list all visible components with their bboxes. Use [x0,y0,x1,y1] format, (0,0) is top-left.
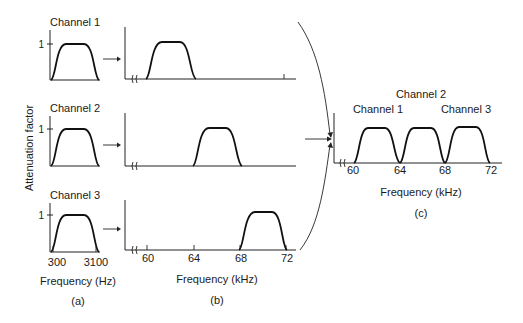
panel-b-xlabel: Frequency (kHz) [176,273,257,285]
panel-c: Channel 2 Channel 1 Channel 3 60 64 68 7… [334,88,502,219]
panel-a-xlabel: Frequency (Hz) [40,275,116,287]
xtick-72: 72 [281,252,293,264]
arrows-a-to-b [103,57,121,232]
ytick-3: 1 [38,210,44,221]
c-xtick-72: 72 [485,164,497,176]
c-xtick-60: 60 [347,164,359,176]
xtick-64: 64 [188,252,200,264]
fdm-diagram: Attenuation factor Channel 1 1 Channel 2… [0,0,523,323]
panel-c-channel-1: Channel 1 [353,103,403,115]
panel-a-caption: (a) [71,295,84,307]
c-xtick-68: 68 [439,164,451,176]
panel-c-channel-3: Channel 3 [441,103,491,115]
channel-3-label: Channel 3 [50,189,100,201]
arrows-b-to-c [298,22,333,250]
panel-c-channel-2: Channel 2 [396,88,446,100]
xtick-60: 60 [142,252,154,264]
panel-b: 60 64 68 72 Frequency (kHz) (b) [125,27,296,306]
panel-a: Channel 1 1 Channel 2 1 Channel 3 1 300 … [38,16,115,307]
panel-c-caption: (c) [415,207,428,219]
xtick-68: 68 [235,252,247,264]
y-axis-label: Attenuation factor [23,105,35,192]
channel-2-label: Channel 2 [50,102,100,114]
c-xtick-64: 64 [394,164,406,176]
ytick-1: 1 [38,39,44,50]
xtick-3100: 3100 [84,256,108,268]
xtick-300: 300 [48,256,66,268]
ytick-2: 1 [38,124,44,135]
channel-1-label: Channel 1 [50,16,100,28]
panel-c-xlabel: Frequency (kHz) [380,186,461,198]
panel-b-caption: (b) [210,294,223,306]
